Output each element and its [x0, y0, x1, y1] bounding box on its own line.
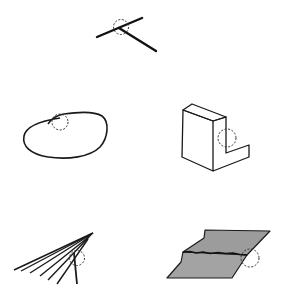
upper-sheet: [183, 230, 270, 255]
l-block-figure: [182, 104, 249, 171]
junction-marker-circle: [218, 129, 236, 147]
junction-marker-circle: [52, 114, 68, 130]
folded-sheet-figure: [167, 230, 270, 278]
block-side-outline: [213, 117, 249, 171]
hidden-edge: [213, 153, 226, 157]
closed-curve-figure: [24, 112, 107, 158]
block-front-face: [182, 110, 213, 171]
figure-canvas: [0, 0, 286, 295]
lower-sheet: [167, 252, 247, 278]
t-junction-stem: [119, 28, 156, 51]
fan-line: [40, 235, 91, 276]
t-junction-figure: [97, 18, 156, 51]
closed-curve-path: [24, 112, 107, 158]
fan-lines-figure: [14, 233, 93, 284]
fan-line: [30, 233, 93, 273]
fan-line: [48, 237, 89, 280]
